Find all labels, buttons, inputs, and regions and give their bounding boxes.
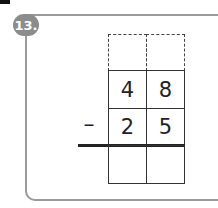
answer-cell-ones[interactable]	[146, 145, 185, 184]
minus-sign: –	[78, 112, 100, 134]
header-fragment	[0, 0, 10, 4]
answer-cell-tens[interactable]	[108, 145, 147, 184]
subtrahend-tens: 2	[108, 108, 147, 146]
minuend-tens: 4	[108, 70, 147, 109]
subtrahend-ones: 5	[146, 108, 185, 146]
carry-cell-tens[interactable]	[108, 34, 147, 71]
minuend-ones: 8	[146, 70, 185, 109]
carry-cell-ones[interactable]	[146, 34, 185, 71]
problem-number-badge: 13.	[13, 14, 39, 36]
